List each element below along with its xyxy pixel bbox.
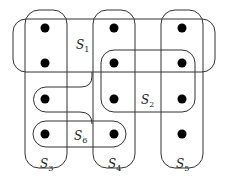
set-label-s4: S4: [108, 157, 121, 173]
set-label-s3: S3: [40, 157, 53, 173]
set-label-s1: S1: [76, 38, 89, 54]
set-s4-outline: [93, 10, 135, 168]
point-p33: [178, 95, 187, 104]
labels-group: S1S2S3S4S5S6: [40, 38, 189, 173]
set-s3-outline: [25, 10, 67, 168]
point-p22: [110, 59, 119, 68]
set-s5-outline: [161, 10, 203, 168]
set-label-s6: S6: [74, 129, 87, 145]
point-p12: [110, 24, 119, 33]
point-p11: [41, 24, 50, 33]
point-p31: [41, 95, 50, 104]
point-p13: [178, 24, 187, 33]
point-p42: [110, 130, 119, 139]
point-p21: [41, 59, 50, 68]
set-cover-diagram: S1S2S3S4S5S6: [0, 0, 228, 180]
set-label-s2: S2: [141, 93, 154, 109]
point-p41: [41, 130, 50, 139]
set-label-s5: S5: [176, 157, 189, 173]
point-p43: [178, 130, 187, 139]
point-p32: [110, 95, 119, 104]
point-p23: [178, 59, 187, 68]
